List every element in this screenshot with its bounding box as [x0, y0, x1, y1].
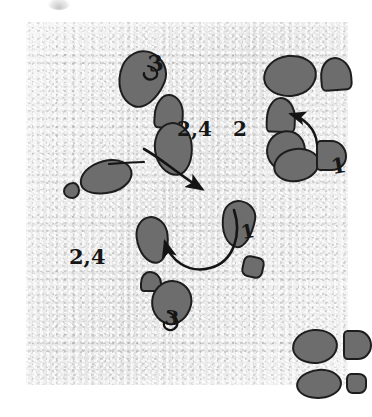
label-1-center: 1 [239, 221, 256, 242]
label-2-right: 2 [233, 119, 247, 139]
label-2-4-center: 2,4 [177, 119, 212, 139]
label-1-right: 1 [329, 154, 347, 177]
blob-bottom-right-4 [346, 373, 367, 394]
label-2-4-left: 2,4 [69, 246, 106, 267]
scan-artifact-icon [48, 0, 70, 10]
scanned-paper-panel: 32,42112,43 [26, 22, 348, 385]
label-3-top: 3 [147, 51, 165, 75]
label-layer: 32,42112,43 [26, 22, 348, 385]
label-3-bottom: 3 [164, 307, 180, 328]
